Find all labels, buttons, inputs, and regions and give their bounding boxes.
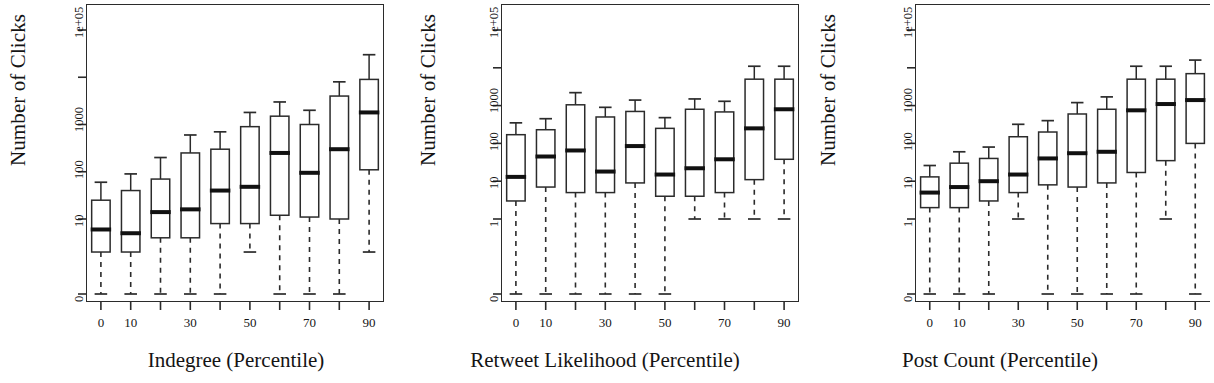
boxplot-item[interactable] bbox=[1067, 103, 1087, 294]
box-iqr[interactable] bbox=[211, 149, 229, 223]
y-tick-label: 1e+05 bbox=[487, 6, 502, 37]
x-tick-label: 10 bbox=[111, 315, 151, 331]
boxplot-item[interactable] bbox=[744, 66, 764, 219]
boxplot-item[interactable] bbox=[91, 182, 111, 294]
x-tick-label: 70 bbox=[1116, 315, 1156, 331]
y-tick-label: 1000 bbox=[72, 107, 87, 132]
box-iqr[interactable] bbox=[1157, 79, 1175, 160]
panel-indegree: Number of Clicks Indegree (Percentile) 0… bbox=[0, 0, 410, 383]
boxplot-item[interactable] bbox=[359, 55, 379, 252]
y-tick-label: 10 bbox=[901, 176, 916, 189]
boxplot-item[interactable] bbox=[269, 102, 289, 294]
boxplot-item[interactable] bbox=[1008, 124, 1028, 219]
boxplot-item[interactable] bbox=[210, 132, 230, 294]
box-iqr[interactable] bbox=[151, 179, 169, 238]
x-tick-label: 70 bbox=[290, 315, 330, 331]
x-tick-label: 30 bbox=[585, 315, 625, 331]
y-tick-label: 10 bbox=[487, 176, 502, 189]
boxplot-item[interactable] bbox=[595, 107, 615, 294]
boxplot-item[interactable] bbox=[240, 112, 260, 252]
y-tick-label: 0 bbox=[901, 295, 916, 301]
boxplot-item[interactable] bbox=[655, 118, 675, 294]
boxplot-item[interactable] bbox=[180, 135, 200, 294]
y-tick-label: 1e+05 bbox=[72, 6, 87, 37]
boxplot-item[interactable] bbox=[329, 82, 349, 294]
box-iqr[interactable] bbox=[596, 117, 614, 193]
y-tick-label: 1000 bbox=[487, 88, 502, 113]
x-tick-label: 50 bbox=[1057, 315, 1097, 331]
boxplot-item[interactable] bbox=[979, 147, 999, 294]
x-tick-label: 10 bbox=[526, 315, 566, 331]
box-iqr[interactable] bbox=[300, 125, 318, 218]
box-iqr[interactable] bbox=[92, 200, 110, 252]
boxplot-item[interactable] bbox=[949, 152, 969, 294]
x-tick-label: 50 bbox=[645, 315, 685, 331]
box-iqr[interactable] bbox=[1098, 109, 1116, 183]
box-iqr[interactable] bbox=[1186, 74, 1204, 144]
y-tick-label: 1 bbox=[487, 220, 502, 226]
panel-retweet-likelihood: Number of Clicks Retweet Likelihood (Per… bbox=[410, 0, 810, 383]
boxplot-item[interactable] bbox=[714, 101, 734, 219]
box-iqr[interactable] bbox=[715, 112, 733, 193]
y-tick-label: 1e+05 bbox=[901, 6, 916, 37]
x-tick-label: 90 bbox=[1175, 315, 1214, 331]
box-iqr[interactable] bbox=[181, 153, 199, 238]
y-tick-label: 1000 bbox=[901, 88, 916, 113]
boxplot-item[interactable] bbox=[506, 123, 526, 294]
boxplot-item[interactable] bbox=[1038, 121, 1058, 294]
boxplot-item[interactable] bbox=[150, 158, 170, 294]
y-tick-label: 100 bbox=[487, 132, 502, 151]
boxplot-item[interactable] bbox=[774, 66, 794, 219]
boxplot-item[interactable] bbox=[1185, 60, 1205, 294]
box-iqr[interactable] bbox=[360, 79, 378, 169]
box-iqr[interactable] bbox=[1068, 114, 1086, 187]
y-tick-label: 1 bbox=[901, 220, 916, 226]
boxplot-item[interactable] bbox=[299, 110, 319, 294]
x-tick-label: 90 bbox=[349, 315, 389, 331]
box-iqr[interactable] bbox=[1127, 79, 1145, 172]
x-tick-label: 50 bbox=[230, 315, 270, 331]
panel-post-count: Number of Clicks Post Count (Percentile)… bbox=[810, 0, 1204, 383]
box-iqr[interactable] bbox=[270, 116, 288, 215]
x-tick-label: 90 bbox=[764, 315, 804, 331]
boxplot-item[interactable] bbox=[920, 166, 940, 294]
boxplot-item[interactable] bbox=[120, 174, 140, 294]
x-tick-label: 70 bbox=[705, 315, 745, 331]
box-iqr[interactable] bbox=[241, 127, 259, 224]
box-iqr[interactable] bbox=[775, 79, 793, 159]
box-iqr[interactable] bbox=[121, 191, 139, 252]
box-iqr[interactable] bbox=[507, 135, 525, 201]
box-iqr[interactable] bbox=[330, 96, 348, 219]
y-tick-label: 0 bbox=[487, 295, 502, 301]
y-tick-label: 0 bbox=[72, 295, 87, 301]
box-iqr[interactable] bbox=[685, 109, 703, 196]
boxplot-item[interactable] bbox=[565, 93, 585, 294]
boxplot-item[interactable] bbox=[1126, 66, 1146, 294]
x-tick-label: 30 bbox=[170, 315, 210, 331]
boxplot-item[interactable] bbox=[625, 100, 645, 294]
y-tick-label: 100 bbox=[72, 161, 87, 180]
boxplot-item[interactable] bbox=[1156, 66, 1176, 219]
boxplot-item[interactable] bbox=[1097, 97, 1117, 294]
box-iqr[interactable] bbox=[656, 128, 674, 196]
x-tick-label: 10 bbox=[939, 315, 979, 331]
y-tick-label: 100 bbox=[901, 132, 916, 151]
boxplot-item[interactable] bbox=[684, 99, 704, 219]
y-tick-label: 10 bbox=[72, 214, 87, 227]
boxplot-item[interactable] bbox=[535, 119, 555, 294]
x-tick-label: 30 bbox=[998, 315, 1038, 331]
box-iqr[interactable] bbox=[1009, 137, 1027, 193]
